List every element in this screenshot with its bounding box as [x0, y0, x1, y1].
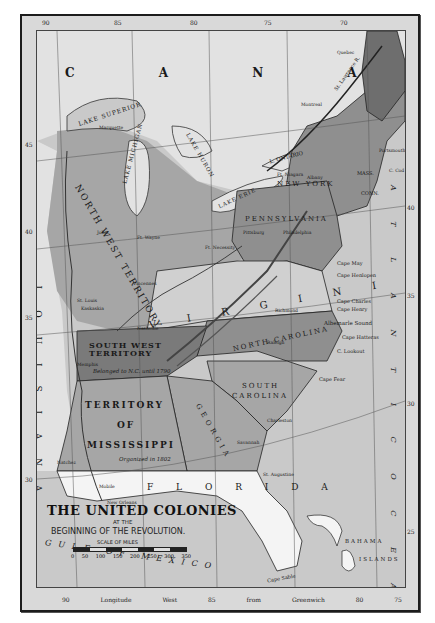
- longitude-bottom-label: Greenwich: [292, 596, 325, 603]
- scale-ticks: 0 50 100 150 200 250 300 350: [71, 553, 191, 559]
- label-raleigh: Raleigh: [267, 341, 285, 346]
- label-new-york: NEW YORK: [277, 181, 335, 188]
- label-mississippi-3: MISSISSIPPI: [87, 441, 175, 450]
- scale-tick: 300: [164, 553, 174, 559]
- map-subtitle-1: AT THE: [113, 519, 132, 525]
- label-memphis: Memphis: [77, 363, 98, 368]
- label-st-louis: St. Louis: [77, 299, 97, 304]
- scale-tick: 50: [82, 553, 88, 559]
- label-cape-hatteras: Cape Hatteras: [342, 335, 379, 340]
- longitude-bottom-label: Longitude: [101, 596, 132, 603]
- longitude-top-90: 90: [42, 19, 50, 26]
- map-area: C A N A D A NORTH WEST TERRITORY L O U I…: [36, 30, 406, 588]
- latitude-right-40: 40: [407, 204, 415, 211]
- label-cape-charles: Cape Charles: [337, 299, 371, 304]
- longitude-bottom-label: from: [247, 596, 261, 603]
- latitude-left-30: 30: [25, 476, 33, 483]
- label-ft-necessity: Ft. Necessity: [205, 246, 235, 251]
- latitude-left-45: 45: [25, 141, 33, 148]
- latitude-right-25: 25: [407, 528, 415, 535]
- label-vincennes: Vincennes: [133, 282, 156, 287]
- scale-tick: 250: [147, 553, 157, 559]
- scale-tick: 0: [71, 553, 74, 559]
- label-albemarle-sound: Albemarle Sound: [324, 321, 372, 327]
- label-ft-wayne: Ft. Wayne: [137, 236, 160, 241]
- label-mobile: Mobile: [99, 485, 115, 490]
- longitude-bottom-label: West: [162, 596, 177, 603]
- label-cape-may: Cape May: [337, 261, 362, 266]
- label-mississippi-2: OF: [117, 421, 135, 430]
- label-mass: MASS.: [357, 171, 374, 176]
- map-subtitle-2: BEGINNING OF THE REVOLUTION.: [51, 527, 185, 536]
- label-southwest-territory: SOUTH WEST TERRITORY: [89, 341, 209, 357]
- label-conn: CONN.: [361, 191, 379, 196]
- scale-tick: 100: [96, 553, 106, 559]
- label-st-augustine: St. Augustine: [263, 473, 294, 478]
- latitude-left-40: 40: [25, 228, 33, 235]
- scale-bar: [73, 547, 187, 552]
- label-quebec: Quebec: [337, 51, 354, 56]
- label-south-carolina-2: CAROLINA: [232, 393, 288, 400]
- longitude-bottom-label: 90: [62, 596, 70, 603]
- label-joliet: Joliet: [97, 231, 109, 236]
- label-cape-fear: Cape Fear: [319, 377, 345, 382]
- latitude-right-35: 35: [407, 292, 415, 299]
- label-mississippi-1: TERRITORY: [85, 401, 164, 410]
- label-natchez: Natchez: [57, 461, 76, 466]
- label-nashville: Nashville: [137, 327, 158, 332]
- label-portsmouth: Portsmouth: [379, 149, 405, 154]
- map-frame: C A N A D A NORTH WEST TERRITORY L O U I…: [20, 14, 420, 612]
- label-atlantic-ocean: A T L A N T I C O C E A N: [389, 185, 397, 588]
- label-marquette: Marquette: [99, 126, 123, 131]
- scale-title: SCALE OF MILES: [97, 539, 138, 545]
- label-kaskaskia: Kaskaskia: [81, 307, 104, 312]
- map-title: THE UNITED COLONIES: [47, 503, 237, 518]
- scale-tick: 350: [181, 553, 191, 559]
- scale-tick: 200: [130, 553, 140, 559]
- label-islands: ISLANDS: [359, 557, 400, 563]
- longitude-bottom-row: 90 Longitude West 85 from Greenwich 80 7…: [62, 596, 402, 603]
- latitude-left-35: 35: [25, 314, 33, 321]
- longitude-bottom-label: 85: [208, 596, 216, 603]
- longitude-top-70: 70: [340, 19, 348, 26]
- longitude-top-80: 80: [190, 19, 198, 26]
- label-florida: F L O R I D A: [147, 483, 338, 492]
- label-ft-niagara: Ft. Niagara: [277, 173, 303, 178]
- longitude-top-75: 75: [264, 19, 272, 26]
- label-louisiana: L O U I S I A N A: [36, 286, 42, 500]
- label-albany: Albany: [307, 176, 323, 181]
- label-charleston: Charleston: [267, 419, 292, 424]
- label-cape-cod: C. Cod: [389, 169, 404, 174]
- label-cape-lookout: C. Lookout: [337, 349, 364, 354]
- label-canada: C A N A D A: [65, 67, 406, 79]
- label-montreal: Montreal: [301, 103, 322, 108]
- label-south-carolina-1: SOUTH: [242, 383, 279, 390]
- longitude-top-85: 85: [114, 19, 122, 26]
- longitude-bottom-label: 75: [394, 596, 402, 603]
- label-cape-henlopen: Cape Henlopen: [337, 273, 376, 278]
- longitude-bottom-label: 80: [356, 596, 364, 603]
- label-philadelphia: Philadelphia: [283, 231, 311, 236]
- latitude-right-30: 30: [407, 400, 415, 407]
- label-mississippi-note: Organized in 1802: [119, 457, 171, 463]
- label-bahama: BAHAMA: [345, 539, 383, 545]
- scale-tick: 150: [113, 553, 123, 559]
- label-southwest-note: Belonged to N.C. until 1790: [93, 369, 171, 375]
- label-cape-henry: Cape Henry: [337, 307, 367, 312]
- label-richmond: Richmond: [275, 309, 298, 314]
- label-pennsylvania: PENNSYLVANIA: [245, 216, 328, 223]
- label-savannah: Savannah: [237, 441, 259, 446]
- label-pittsburg: Pittsburg: [243, 231, 264, 236]
